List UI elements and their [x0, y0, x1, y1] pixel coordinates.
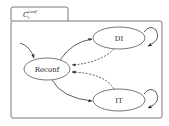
- state-di-label: DI: [115, 35, 124, 43]
- state-reconf: Reconf: [24, 58, 70, 80]
- state-it-label: IT: [115, 97, 123, 105]
- self-loop-di: [144, 27, 158, 46]
- transition-it-to-reconf: [72, 72, 114, 89]
- initial-transition-arrow: [20, 43, 34, 58]
- state-diagram: C i conf Reconf DI IT: [0, 0, 169, 126]
- transition-reconf-to-it: [52, 80, 92, 101]
- transition-reconf-to-di: [60, 39, 92, 60]
- tab-label-sub: i: [28, 15, 30, 20]
- container-tab: C i conf: [11, 7, 68, 21]
- tab-label-sup: conf: [28, 9, 38, 14]
- state-it: IT: [93, 89, 145, 111]
- state-di: DI: [93, 27, 145, 49]
- transition-di-to-reconf: [72, 49, 114, 65]
- self-loop-it: [144, 89, 158, 108]
- state-reconf-label: Reconf: [35, 66, 61, 74]
